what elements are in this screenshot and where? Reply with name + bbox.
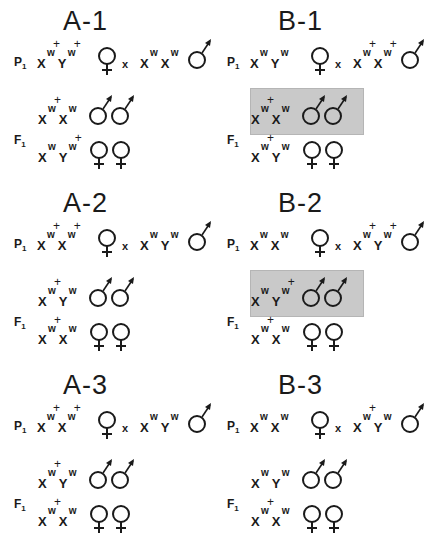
female-symbol-icon [88,322,110,356]
allele: Yw [161,420,170,435]
chromosome-letter: Y [59,476,68,491]
allele: Xw [250,238,259,253]
female-symbol-icon [110,504,132,538]
male-symbol-icon [400,220,426,256]
cross-panel-b-3: B-3P1XwXwxXw+YwF1XwYwXw+Xw [213,364,426,546]
allele-superscript: w [260,47,268,58]
genotype-alleles: Xw+Xw [38,112,79,127]
chromosome-letter: X [272,332,281,347]
genotype-alleles: Xw+Yw [38,476,79,491]
panel-title: B-1 [278,6,323,37]
allele: Xw+ [58,420,67,435]
p1-label: P1 [14,237,26,253]
chromosome-letter: Y [272,294,281,309]
allele: Xw [250,56,259,71]
genotype-alleles: Xw+Yw [353,420,394,435]
p1-male-genotype: Xw+Yw+ [353,238,394,253]
p1-female-genotype: XwYw [250,56,291,71]
female-symbol-icon [323,140,345,174]
female-symbol-icon [301,504,323,538]
allele-superscript: w [260,411,268,422]
genotype-alleles: Xw+Yw+ [353,238,394,253]
allele: Xw+ [353,238,362,253]
cross-panel-b-1: B-1P1XwYwxXw+Xw+F1Xw+XwXw+Yw [213,0,426,182]
p1-female-genotype: Xw+Xw+ [37,238,78,253]
allele: Xw+ [58,238,67,253]
chromosome-letter: X [37,420,46,435]
genotype-alleles: XwYw [251,476,292,491]
genotype-alleles: Xw+Yw [38,294,79,309]
allele: Yw+ [59,150,68,165]
chromosome-letter: X [140,420,149,435]
allele: Xw+ [38,112,47,127]
female-symbol-icon [309,228,331,262]
f1-genotype: Xw+Xw [251,112,292,127]
generation-letter: P [227,237,235,251]
female-symbol-icon [96,46,118,80]
allele-superscript: w [281,47,289,58]
p1-label: P1 [14,55,26,71]
allele: Xw+ [374,56,383,71]
panel-title: A-1 [63,6,108,37]
allele-superscript: w [171,229,179,240]
allele-superscript: w [69,505,77,516]
allele: Yw [272,476,281,491]
allele-superscript: w [150,47,158,58]
allele-superscript: w [282,323,290,334]
chromosome-letter: X [38,294,47,309]
chromosome-letter: X [38,332,47,347]
p1-label: P1 [227,237,239,253]
f1-label: F1 [14,497,26,513]
f1-label: F1 [227,497,239,513]
allele-superscript: w [261,467,269,478]
female-symbol-icon [309,46,331,80]
cross-symbol: x [335,240,341,252]
allele: Yw [59,476,68,491]
p1-female-genotype: XwXw [250,238,291,253]
allele: Xw+ [37,420,46,435]
chromosome-letter: Y [374,420,383,435]
f1-label: F1 [14,315,26,331]
p1-male-genotype: XwYw [140,420,181,435]
p1-label: P1 [227,419,239,435]
female-symbol-icon [309,410,331,444]
chromosome-letter: X [140,238,149,253]
p1-female-genotype: Xw+Xw+ [37,420,78,435]
generation-letter: P [14,55,22,69]
female-symbol-icon [88,140,110,174]
allele: Xw [272,514,281,529]
chromosome-letter: X [251,332,260,347]
allele: Xw [250,420,259,435]
genotype-alleles: XwYw+ [251,294,292,309]
genotype-alleles: Xw+Yw [251,150,292,165]
allele: Xw [59,332,68,347]
male-symbol-icon [110,276,136,312]
f1-genotype: Xw+Yw [251,150,292,165]
wildtype-plus: + [74,401,81,415]
wildtype-plus: + [54,457,61,471]
male-symbol-icon [187,38,213,74]
generation-letter: P [14,419,22,433]
wildtype-plus: + [267,131,274,145]
allele: Xw+ [353,56,362,71]
chromosome-letter: X [250,238,259,253]
cross-symbol: x [122,422,128,434]
chromosome-letter: X [251,112,260,127]
male-symbol-icon [187,220,213,256]
allele-superscript: w [150,229,158,240]
chromosome-letter: Y [161,420,170,435]
female-symbol-icon [88,504,110,538]
allele: Xw+ [38,294,47,309]
generation-subscript: 1 [235,426,239,435]
allele: Xw [272,332,281,347]
allele-superscript: w [282,505,290,516]
f1-genotype: Xw+Yw [38,476,79,491]
f1-label: F1 [14,133,26,149]
allele: Yw+ [374,238,383,253]
genotype-alleles: XwYw [250,56,291,71]
female-symbol-icon [96,410,118,444]
allele: Xw [59,514,68,529]
generation-letter: P [14,237,22,251]
p1-female-genotype: XwXw [250,420,291,435]
allele: Xw+ [37,238,46,253]
